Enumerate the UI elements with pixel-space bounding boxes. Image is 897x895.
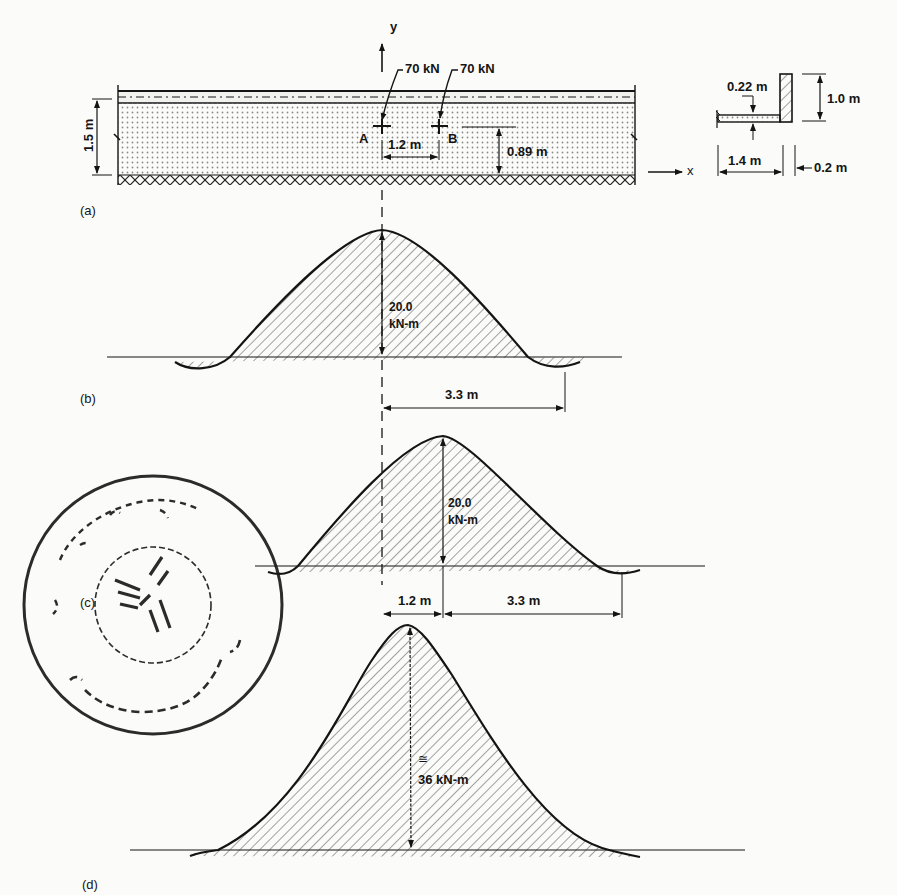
panel-b-moment-value: 20.0	[389, 301, 412, 314]
moment-curve-c	[255, 436, 705, 618]
panel-d-peak-moment: 36 kN-m	[418, 773, 469, 787]
wheel-spacing-label: 1.2 m	[388, 138, 421, 152]
panel-c-half-width: 3.3 m	[507, 594, 540, 608]
slab-thickness-label: 1.5 m	[82, 119, 96, 152]
panel-c-label: (c)	[80, 596, 95, 610]
panel-b-moment-unit: kN-m	[389, 318, 419, 331]
flange-thickness-label: 0.22 m	[727, 80, 767, 94]
overhang-width-label: 1.4 m	[728, 154, 761, 168]
slab-section	[114, 85, 637, 185]
y-axis-label: y	[390, 20, 397, 34]
moment-curve-d	[130, 625, 745, 857]
panel-c-moment-value: 20.0	[448, 497, 471, 510]
panel-b-half-width: 3.3 m	[445, 388, 478, 402]
point-a-label: A	[359, 132, 368, 146]
panel-c-moment-unit: kN-m	[448, 514, 478, 527]
point-b-label: B	[448, 132, 457, 146]
moment-curve-b	[107, 230, 622, 412]
load-depth-label: 0.89 m	[507, 145, 547, 159]
curb-width-label: 0.2 m	[814, 161, 847, 175]
panel-b-label: (b)	[80, 392, 96, 406]
panel-a-label: (a)	[80, 204, 96, 218]
panel-c-offset: 1.2 m	[398, 594, 431, 608]
load-1-label: 70 kN	[405, 62, 440, 76]
library-stamp	[24, 476, 282, 734]
x-axis-label: x	[687, 164, 694, 178]
curb-height-label: 1.0 m	[827, 92, 860, 106]
load-2-label: 70 kN	[460, 62, 495, 76]
panel-d-label: (d)	[82, 878, 98, 892]
panel-d-approx-symbol: ≅	[418, 753, 428, 766]
